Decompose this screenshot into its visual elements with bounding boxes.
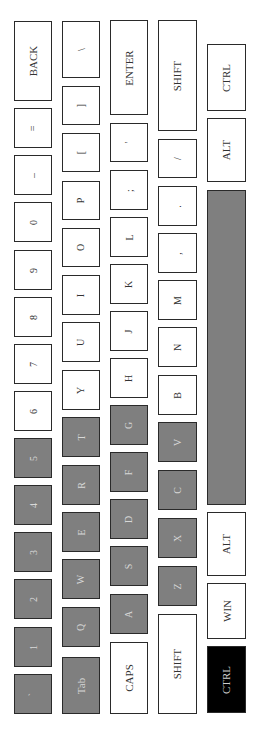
key-label: B [172, 392, 183, 399]
key-label: 8 [28, 315, 39, 320]
key-label: G [123, 421, 134, 428]
key-p[interactable]: P [62, 181, 100, 220]
key-quote[interactable]: ' [110, 123, 148, 162]
key-d[interactable]: D [110, 499, 148, 539]
key-h[interactable]: H [110, 358, 148, 398]
key-right-alt[interactable]: ALT [207, 118, 246, 182]
key-semicolon[interactable]: ; [110, 170, 148, 210]
key-label: F [124, 469, 135, 475]
key-label: Tab [75, 677, 87, 693]
key-label: 1 [28, 645, 39, 650]
key-label: U [75, 338, 86, 345]
key-label: P [76, 198, 87, 204]
key-o[interactable]: O [62, 228, 100, 267]
key-6[interactable]: 6 [14, 391, 52, 431]
key-label: S [124, 563, 135, 569]
key-8[interactable]: 8 [14, 297, 52, 337]
key-caps[interactable]: CAPS [110, 642, 148, 714]
key-label: Q [75, 623, 86, 630]
key-label: C [172, 487, 183, 494]
key-e[interactable]: E [62, 512, 100, 552]
key-label: R [75, 482, 86, 489]
key-label: \ [76, 48, 87, 51]
key-label: 6 [28, 409, 39, 414]
key-label: V [172, 438, 183, 445]
key-u[interactable]: U [62, 322, 100, 362]
key-slash[interactable]: / [158, 139, 197, 178]
key-label: 2 [28, 597, 39, 602]
key-label: Y [75, 386, 86, 393]
key-label: ' [124, 142, 135, 144]
key-k[interactable]: K [110, 264, 148, 304]
key-n[interactable]: N [158, 327, 197, 367]
key-label: ] [76, 104, 87, 107]
key-label: E [75, 529, 86, 535]
key-backslash[interactable]: \ [62, 21, 100, 78]
key-tab[interactable]: Tab [62, 657, 100, 714]
key-label: ENTER [123, 50, 135, 85]
key-label: SHIFT [172, 649, 184, 680]
key-v[interactable]: V [158, 422, 197, 462]
key-left-shift[interactable]: SHIFT [158, 614, 197, 714]
key-j[interactable]: J [110, 311, 148, 351]
key-label: SHIFT [172, 60, 184, 91]
key-left-bracket[interactable]: [ [62, 133, 100, 172]
key-right-shift[interactable]: SHIFT [158, 20, 197, 131]
key-5[interactable]: 5 [14, 438, 52, 478]
key-label: K [123, 280, 134, 287]
key-label: ALT [221, 140, 233, 160]
key-back[interactable]: BACK [14, 21, 52, 101]
key-label: 4 [28, 503, 39, 508]
key-left-alt[interactable]: ALT [207, 512, 246, 576]
key-r[interactable]: R [62, 465, 100, 505]
key-4[interactable]: 4 [14, 485, 52, 525]
key-label: [ [76, 151, 87, 154]
key-enter[interactable]: ENTER [110, 20, 148, 115]
key-s[interactable]: S [110, 546, 148, 586]
key-f[interactable]: F [110, 452, 148, 492]
key-label: A [123, 610, 134, 617]
key-i[interactable]: I [62, 275, 100, 315]
key-y[interactable]: Y [62, 370, 100, 410]
key-label: Z [172, 583, 183, 589]
key-g[interactable]: G [110, 405, 148, 445]
key-1[interactable]: 1 [14, 627, 52, 667]
key-period[interactable]: . [158, 186, 197, 226]
key-m[interactable]: M [158, 280, 197, 320]
key-l[interactable]: L [110, 217, 148, 257]
key-space[interactable] [207, 190, 246, 505]
key-label: W [75, 574, 86, 583]
key-w[interactable]: W [62, 559, 100, 599]
key-right-ctrl[interactable]: CTRL [207, 44, 246, 111]
key-t[interactable]: T [62, 417, 100, 457]
key-9[interactable]: 9 [14, 250, 52, 290]
key-label: / [172, 157, 183, 160]
key-7[interactable]: 7 [14, 344, 52, 384]
key-minus[interactable]: – [14, 155, 52, 195]
key-q[interactable]: Q [62, 607, 100, 647]
key-comma[interactable]: , [158, 233, 197, 273]
key-c[interactable]: C [158, 470, 197, 510]
key-label: T [75, 434, 86, 440]
key-z[interactable]: Z [158, 566, 197, 606]
key-label: 5 [28, 456, 39, 461]
key-label: ` [28, 692, 39, 695]
key-equals[interactable]: = [14, 108, 52, 148]
key-label: X [172, 534, 183, 541]
virtual-keyboard: BACK=–0987654321`\][POIUYTREWQTabENTER';… [0, 0, 261, 749]
key-b[interactable]: B [158, 375, 197, 415]
key-a[interactable]: A [110, 594, 148, 634]
key-label: BACK [27, 46, 39, 77]
key-right-bracket[interactable]: ] [62, 86, 100, 125]
key-0[interactable]: 0 [14, 202, 52, 242]
key-win[interactable]: WIN [207, 583, 246, 639]
key-2[interactable]: 2 [14, 579, 52, 619]
key-label: ALT [221, 534, 233, 554]
key-x[interactable]: X [158, 518, 197, 558]
key-3[interactable]: 3 [14, 532, 52, 572]
key-label: H [123, 374, 134, 381]
key-label: 3 [28, 550, 39, 555]
key-backtick[interactable]: ` [14, 674, 52, 714]
key-left-ctrl[interactable]: CTRL [207, 646, 246, 713]
key-label: 9 [28, 268, 39, 273]
